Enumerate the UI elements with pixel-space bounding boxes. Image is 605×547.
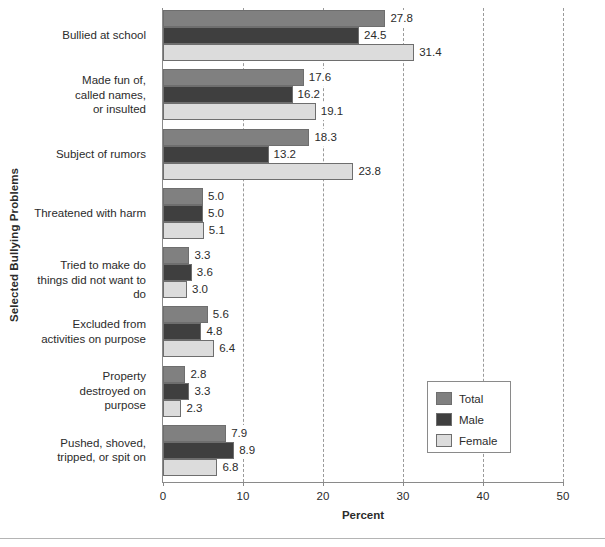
bar-value-label: 17.6: [305, 69, 333, 86]
bar-value-label: 13.2: [270, 146, 298, 163]
legend-label-female: Female: [459, 435, 497, 447]
bar-male: [163, 205, 203, 222]
category-label: Pushed, shoved, tripped, or spit on: [28, 436, 146, 465]
bar-female: [163, 459, 217, 476]
bar-value-label: 18.3: [310, 129, 338, 146]
bar-value-label: 3.6: [193, 264, 215, 281]
bar-male: [163, 323, 201, 340]
bar-total: [163, 247, 189, 264]
legend-item-male: Male: [436, 410, 510, 429]
bar-value-label: 3.3: [190, 383, 212, 400]
legend-label-total: Total: [459, 393, 483, 405]
x-tick-label-10: 10: [237, 490, 250, 502]
x-tick-label-30: 30: [397, 490, 410, 502]
bar-total: [163, 425, 226, 442]
bar-total: [163, 366, 185, 383]
bar-value-label: 27.8: [386, 10, 414, 27]
bar-female: [163, 222, 204, 239]
bar-male: [163, 86, 293, 103]
bar-value-label: 8.9: [235, 442, 257, 459]
bar-value-label: 3.3: [190, 247, 212, 264]
bar-value-label: 5.0: [204, 188, 226, 205]
bar-male: [163, 27, 359, 44]
bar-value-label: 24.5: [360, 27, 388, 44]
x-tick-label-0: 0: [160, 490, 166, 502]
bullying-problems-bar-chart: Selected Bullying Problems Bullied at sc…: [0, 0, 605, 547]
x-axis-line: [162, 482, 564, 483]
bar-total: [163, 306, 208, 323]
category-label: Bullied at school: [28, 28, 146, 43]
legend-label-male: Male: [459, 414, 484, 426]
bar-value-label: 31.4: [415, 44, 443, 61]
bar-value-label: 7.9: [227, 425, 249, 442]
legend-swatch-male: [436, 413, 452, 426]
bar-total: [163, 69, 304, 86]
tick-mark-30: [403, 482, 404, 486]
tick-mark-50: [563, 482, 564, 486]
bar-value-label: 5.6: [209, 306, 231, 323]
bar-value-label: 6.8: [218, 459, 240, 476]
bar-male: [163, 442, 234, 459]
bar-female: [163, 340, 214, 357]
bar-female: [163, 103, 316, 120]
bar-female: [163, 44, 414, 61]
gridline-30: [403, 8, 404, 482]
bar-total: [163, 129, 309, 146]
bar-female: [163, 163, 353, 180]
bar-value-label: 19.1: [317, 103, 345, 120]
bar-female: [163, 281, 187, 298]
category-label: Subject of rumors: [28, 147, 146, 162]
category-label: Threatened with harm: [28, 206, 146, 221]
legend: TotalMaleFemale: [427, 381, 511, 453]
legend-item-female: Female: [436, 431, 510, 450]
bar-total: [163, 10, 385, 27]
bar-male: [163, 264, 192, 281]
bar-female: [163, 400, 181, 417]
legend-item-total: Total: [436, 389, 510, 408]
legend-swatch-female: [436, 434, 452, 447]
x-axis-title: Percent: [163, 509, 563, 521]
x-tick-label-50: 50: [557, 490, 570, 502]
bar-value-label: 23.8: [354, 163, 382, 180]
tick-mark-20: [323, 482, 324, 486]
bar-value-label: 16.2: [294, 86, 322, 103]
bar-male: [163, 146, 269, 163]
x-tick-label-40: 40: [477, 490, 490, 502]
category-label: Tried to make do things did not want to …: [28, 258, 146, 302]
category-label: Made fun of, called names, or insulted: [28, 73, 146, 117]
legend-swatch-total: [436, 392, 452, 405]
bar-value-label: 4.8: [202, 323, 224, 340]
category-label-column: Bullied at schoolMade fun of, called nam…: [0, 0, 155, 547]
category-label: Excluded from activities on purpose: [28, 317, 146, 346]
tick-mark-40: [483, 482, 484, 486]
bar-value-label: 5.1: [205, 222, 227, 239]
bar-value-label: 2.3: [182, 400, 204, 417]
bar-value-label: 2.8: [186, 366, 208, 383]
gridline-50: [563, 8, 564, 482]
tick-mark-0: [163, 482, 164, 486]
footer-rule: [0, 538, 605, 539]
bar-male: [163, 383, 189, 400]
bar-value-label: 3.0: [188, 281, 210, 298]
bar-value-label: 5.0: [204, 205, 226, 222]
category-label: Property destroyed on purpose: [28, 369, 146, 413]
bar-total: [163, 188, 203, 205]
bar-value-label: 6.4: [215, 340, 237, 357]
x-tick-label-20: 20: [317, 490, 330, 502]
tick-mark-10: [243, 482, 244, 486]
